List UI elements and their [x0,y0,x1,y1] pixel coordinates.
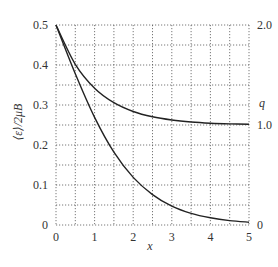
x-tick-label: 3 [169,230,175,244]
y2-tick-label: 1.0 [257,118,272,132]
x-axis-label: x [146,239,153,253]
y-tick-label: 0.2 [33,138,48,152]
axis-labels: x q ⟨ε⟩/2μB [11,96,265,253]
data-curves [56,25,249,222]
y2-axis-label: q [259,96,265,110]
x-tick-label: 1 [92,230,98,244]
x-tick-label: 5 [246,230,252,244]
y-axis-label: ⟨ε⟩/2μB [11,103,25,140]
y-tick-label: 0.3 [33,98,48,112]
x-tick-label: 2 [130,230,136,244]
y-tick-label: 0 [42,218,48,232]
y-tick-label: 0.5 [33,18,48,32]
x-tick-label: 0 [53,230,59,244]
y2-tick-label: 0 [257,218,263,232]
y-tick-label: 0.1 [33,178,48,192]
x-tick-label: 4 [207,230,213,244]
y-tick-label: 0.4 [33,58,48,72]
chart: 01234500.10.20.30.40.501.02.0 x q ⟨ε⟩/2μ… [0,0,278,267]
y2-tick-label: 2.0 [257,18,272,32]
